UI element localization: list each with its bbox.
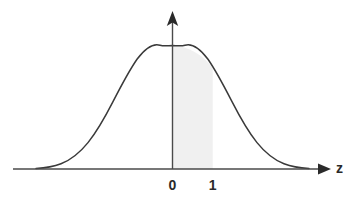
- x-tick-label-1: 1: [209, 177, 217, 193]
- arrow-right-icon: [318, 163, 331, 174]
- figure-canvas: 0 1 z: [0, 0, 352, 201]
- x-axis-label: z: [336, 160, 343, 176]
- x-tick-label-0: 0: [169, 177, 177, 193]
- shaded-area-region: [173, 46, 213, 169]
- normal-distribution-figure: 0 1 z: [0, 0, 352, 201]
